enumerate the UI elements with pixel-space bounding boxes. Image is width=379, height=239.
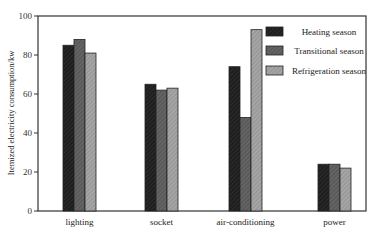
- bar-air-conditioning-1: [240, 117, 251, 211]
- y-axis: 020406080100: [19, 11, 39, 216]
- bar-socket-2: [167, 88, 178, 211]
- y-tick-label: 60: [23, 89, 33, 99]
- legend: Heating seasonTransitional seasonRefrige…: [266, 27, 367, 76]
- bar-air-conditioning-2: [251, 30, 262, 211]
- bars: [63, 30, 351, 211]
- y-tick-label: 100: [19, 11, 33, 21]
- bar-lighting-1: [74, 39, 85, 211]
- bar-power-1: [329, 164, 340, 211]
- bar-socket-1: [156, 90, 167, 211]
- y-tick-label: 40: [23, 128, 33, 138]
- legend-swatch: [266, 66, 283, 75]
- y-axis-label: Itemized electricity consumption/kw: [6, 50, 16, 175]
- x-category-label: socket: [150, 217, 173, 227]
- x-category-label: air-conditioning: [217, 217, 275, 227]
- legend-swatch: [266, 27, 283, 36]
- legend-label: Heating season: [302, 27, 357, 37]
- y-tick-label: 0: [28, 206, 33, 216]
- y-tick-label: 20: [23, 167, 33, 177]
- x-axis-labels: lightingsocketair-conditioningpower: [65, 217, 345, 227]
- bar-power-2: [340, 168, 351, 211]
- y-tick-label: 80: [23, 50, 33, 60]
- x-category-label: power: [323, 217, 346, 227]
- bar-power-0: [318, 164, 329, 211]
- x-category-label: lighting: [65, 217, 94, 227]
- bar-socket-0: [145, 84, 156, 211]
- legend-label: Transitional season: [294, 46, 364, 56]
- bar-air-conditioning-0: [229, 67, 240, 211]
- bar-lighting-0: [63, 45, 74, 211]
- bar-chart: 020406080100 lightingsocketair-condition…: [0, 0, 379, 239]
- legend-label: Refrigeration season: [292, 66, 367, 76]
- legend-swatch: [266, 46, 283, 55]
- bar-lighting-2: [85, 53, 96, 211]
